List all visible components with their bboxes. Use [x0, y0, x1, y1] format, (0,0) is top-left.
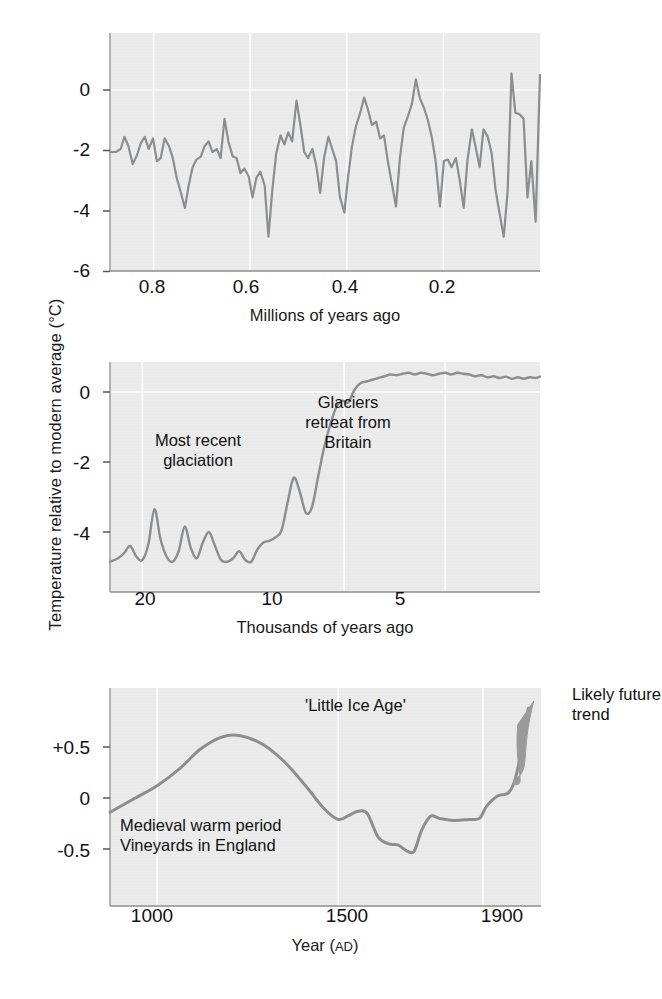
panel-middle-thousand-years: 0 -2 -4 20 10 5 Thousands of years ago M…: [0, 330, 662, 660]
ytick-bot-m05: -0.5: [30, 840, 90, 862]
annotation-most-recent-glaciation: Most recent glaciation: [118, 430, 278, 470]
xtick-bot-1000: 1000: [112, 905, 192, 927]
xtick-top-0-4: 0.4: [315, 276, 375, 298]
ytick-top-m4: -4: [45, 200, 90, 222]
annotation-likely-future-trend: Likely future trend: [572, 684, 662, 724]
ytick-bot-p05: +0.5: [30, 737, 90, 759]
panel-top-million-years: 0 -2 -4 -6 0.8 0.6 0.4 0.2 Millions of y…: [0, 0, 662, 330]
ytick-mid-m4: -4: [45, 523, 90, 545]
ytick-top-m6: -6: [45, 260, 90, 282]
xtick-bot-1500: 1500: [307, 905, 387, 927]
xtick-top-0-2: 0.2: [412, 276, 472, 298]
ytick-top-0: 0: [45, 79, 90, 101]
annotation-little-ice-age: 'Little Ice Age': [305, 695, 505, 715]
xtick-mid-20: 20: [115, 588, 175, 610]
climate-figure: Temperature relative to modern average (…: [0, 0, 662, 999]
xtick-bot-1900: 1900: [462, 905, 542, 927]
xtick-top-0-6: 0.6: [216, 276, 276, 298]
annotation-medieval-warm-period: Medieval warm period Vineyards in Englan…: [120, 815, 420, 855]
panel-middle-plot: [0, 330, 662, 660]
xtick-mid-10: 10: [242, 588, 302, 610]
xtick-top-0-8: 0.8: [122, 276, 182, 298]
xaxis-title-bottom-year: Year (: [292, 936, 335, 954]
panel-bottom-year-ad: +0.5 0 -0.5 1000 1500 1900 Year (AD) 'Li…: [0, 660, 662, 999]
xaxis-title-top: Millions of years ago: [160, 306, 490, 325]
annotation-glaciers-retreat-britain: Glaciers retreat from Britain: [268, 392, 428, 452]
xtick-mid-5: 5: [370, 588, 430, 610]
ytick-mid-0: 0: [45, 382, 90, 404]
xaxis-title-bottom: Year (AD): [225, 936, 425, 955]
ytick-mid-m2: -2: [45, 452, 90, 474]
xaxis-title-bottom-close: ): [353, 936, 359, 954]
xaxis-title-middle: Thousands of years ago: [160, 618, 490, 637]
xaxis-title-bottom-ad: AD: [335, 939, 353, 954]
ytick-top-m2: -2: [45, 139, 90, 161]
ytick-bot-0: 0: [30, 788, 90, 810]
